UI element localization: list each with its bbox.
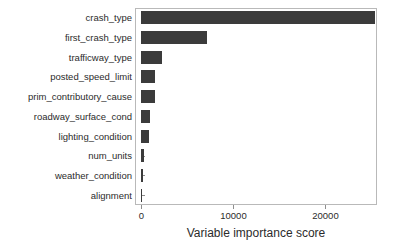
bar-fill xyxy=(141,90,154,103)
bar-fill xyxy=(141,110,149,123)
bar xyxy=(141,130,148,143)
bar-fill xyxy=(141,130,148,143)
bar xyxy=(141,11,375,24)
bar-fill xyxy=(141,149,144,162)
x-axis-tick-mark xyxy=(233,205,234,209)
bar-fill xyxy=(141,70,155,83)
y-axis-tick-label: alignment xyxy=(14,190,132,201)
bar xyxy=(141,149,144,162)
y-axis-tick-label: lighting_condition xyxy=(14,131,132,142)
y-axis-tick-label: posted_speed_limit xyxy=(14,71,132,82)
bar-fill xyxy=(141,169,143,182)
y-axis-tick-label: roadway_surface_cond xyxy=(14,111,132,122)
bar-fill xyxy=(141,11,375,24)
y-axis-tick-label: weather_condition xyxy=(14,170,132,181)
x-axis-tick-mark xyxy=(325,205,326,209)
x-axis-tick-label: 0 xyxy=(139,210,144,221)
bar xyxy=(141,189,142,202)
bar-fill xyxy=(141,51,162,64)
bar xyxy=(141,31,206,44)
x-axis-title: Variable importance score xyxy=(135,226,377,240)
x-axis-tick-label: 10000 xyxy=(220,210,246,221)
x-axis-tick-label: 20000 xyxy=(312,210,338,221)
x-axis-tick-mark xyxy=(141,205,142,209)
bar xyxy=(141,110,149,123)
bar xyxy=(141,169,143,182)
bar xyxy=(141,70,155,83)
y-axis-tick-label: first_crash_type xyxy=(14,32,132,43)
bar xyxy=(141,90,154,103)
y-axis-tick-label: trafficway_type xyxy=(14,52,132,63)
y-axis-category-labels: crash_typefirst_crash_typetrafficway_typ… xyxy=(10,0,132,252)
bar-fill xyxy=(141,31,206,44)
y-axis-tick-label: num_units xyxy=(14,150,132,161)
y-axis-tick-label: crash_type xyxy=(14,12,132,23)
variable-importance-chart: crash_typefirst_crash_typetrafficway_typ… xyxy=(0,0,395,252)
bar xyxy=(141,51,162,64)
bar-fill xyxy=(141,189,142,202)
y-axis-tick-label: prim_contributory_cause xyxy=(14,91,132,102)
